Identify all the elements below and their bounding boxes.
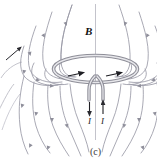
lead-wires xyxy=(89,76,103,100)
interior-arrow-right xyxy=(106,73,120,76)
physics-figure-magnetic-field-loop: B I I (c) xyxy=(0,0,157,163)
current-label-left: I xyxy=(88,117,91,126)
field-line-arrowheads-right xyxy=(122,21,157,150)
magnetic-field-label: B xyxy=(85,26,92,37)
current-label-right: I xyxy=(101,117,104,126)
field-diagram-svg xyxy=(0,0,157,163)
figure-caption: (c) xyxy=(90,146,101,157)
adjacent-panel-fragment xyxy=(0,48,22,130)
adjacent-panel-arrow xyxy=(6,48,20,60)
interior-arrow-left xyxy=(68,73,82,76)
current-arrows xyxy=(90,102,104,114)
